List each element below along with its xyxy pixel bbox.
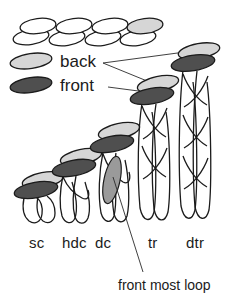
- stitch-label-dtr: dtr: [186, 234, 204, 251]
- dc-front-loop: [89, 132, 135, 156]
- stitch-column-tr: tr: [129, 72, 180, 251]
- legend: back front: [9, 51, 96, 96]
- legend-label-front: front: [60, 76, 94, 95]
- legend-row-front: front: [9, 75, 94, 96]
- back-loop-swatch: [9, 51, 53, 72]
- stitch-label-dc: dc: [95, 234, 112, 251]
- callout-label-front-most-loop: front most loop: [118, 277, 211, 293]
- stitch-label-hdc: hdc: [62, 234, 87, 251]
- dtr-front-loop: [170, 52, 216, 74]
- legend-label-back: back: [60, 52, 96, 71]
- stitch-label-tr: tr: [148, 234, 158, 251]
- stitch-height-diagram: back front sc hdc: [0, 0, 249, 307]
- diagram-canvas: back front sc hdc: [0, 0, 249, 307]
- back-leader-to-dtr: [103, 52, 185, 63]
- stitch-column-dtr: dtr: [170, 40, 221, 251]
- stitch-column-dc: dc: [89, 119, 141, 251]
- stitch-label-sc: sc: [29, 234, 45, 251]
- chain-highlight-loop: [126, 16, 164, 35]
- foundation-chain: [12, 16, 164, 48]
- hdc-front-loop: [51, 156, 97, 180]
- stitch-column-sc: sc: [13, 169, 65, 251]
- tr-front-loop: [129, 84, 175, 107]
- sc-front-loop: [13, 178, 59, 201]
- chain-upper-loops: [19, 16, 164, 35]
- front-loop-swatch: [9, 75, 53, 96]
- legend-row-back: back: [9, 51, 96, 72]
